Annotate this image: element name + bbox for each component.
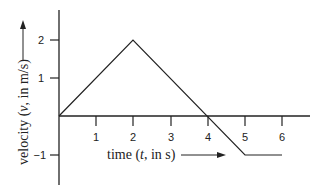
y-axis-title-group: velocity (v, in m/s) [16, 59, 32, 165]
x-tick-label: 6 [279, 131, 285, 143]
x-tick-labels: 1 2 3 4 5 6 [93, 131, 285, 143]
y-tick-label: 2 [38, 34, 44, 46]
x-tick-label: 3 [168, 131, 174, 143]
arrow-up-icon [20, 20, 26, 29]
arrow-right-icon [217, 152, 226, 158]
x-tick-label: 5 [242, 131, 248, 143]
y-tick-label: 1 [38, 72, 44, 84]
x-axis-title: time (t, in s) [107, 147, 176, 163]
y-axis-title: velocity (v, in m/s) [16, 59, 32, 165]
x-tick-label: 4 [205, 131, 211, 143]
velocity-time-chart: 1 2 3 4 5 6 2 1 −1 time (t, in s) veloci… [0, 0, 322, 192]
x-tick-label: 1 [93, 131, 99, 143]
y-tick-label: −1 [33, 149, 46, 161]
x-ticks [96, 116, 282, 126]
y-ticks [50, 40, 59, 155]
x-tick-label: 2 [130, 131, 136, 143]
y-tick-labels: 2 1 −1 [33, 34, 46, 161]
